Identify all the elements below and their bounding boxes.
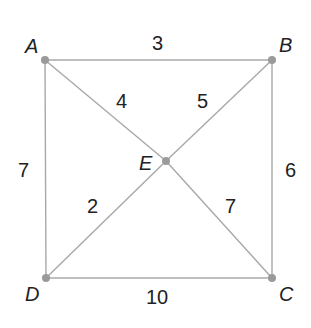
weight-A-B: 3 <box>152 32 163 54</box>
weight-A-D: 7 <box>18 159 29 181</box>
weight-B-E: 5 <box>197 90 208 112</box>
weight-B-C: 6 <box>285 159 296 181</box>
weight-E-C: 7 <box>225 195 236 217</box>
vertex-label-E: E <box>139 152 153 174</box>
vertex-C <box>268 274 276 282</box>
vertex-B <box>268 56 276 64</box>
weight-A-E: 4 <box>116 90 127 112</box>
vertex-D <box>42 274 50 282</box>
vertex-label-B: B <box>279 34 292 56</box>
vertex-label-D: D <box>25 283 39 305</box>
edge-D-E <box>46 161 166 278</box>
vertex-A <box>41 56 49 64</box>
graph-diagram: A B C D E 3 6 10 7 4 5 7 2 <box>0 0 311 328</box>
edge-A-E <box>45 60 166 161</box>
edge-A-D <box>45 60 46 278</box>
edge-B-E <box>166 60 272 161</box>
vertex-E <box>162 157 170 165</box>
weight-D-C: 10 <box>146 286 168 308</box>
vertex-label-C: C <box>279 283 294 305</box>
weight-D-E: 2 <box>87 195 98 217</box>
vertex-label-A: A <box>24 35 38 57</box>
edge-E-C <box>166 161 272 278</box>
